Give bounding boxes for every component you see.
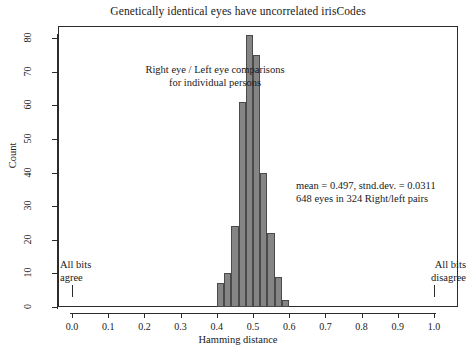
histogram-bar	[275, 277, 282, 307]
comparison-caption-line2: for individual persons	[130, 76, 300, 89]
x-axis-tick-label: 0.9	[378, 321, 418, 332]
y-axis-tick-label: 20	[22, 224, 33, 254]
y-axis-title: Count	[7, 126, 18, 186]
x-axis-tick-label: 0.4	[197, 321, 237, 332]
histogram-bar	[224, 273, 231, 307]
x-axis-tick	[362, 313, 363, 318]
y-axis-tick	[52, 72, 57, 73]
all-bits-agree-line1: All bits	[60, 258, 91, 271]
x-axis-tick-label: 1.0	[414, 321, 454, 332]
y-axis-tick-label: 70	[22, 56, 33, 86]
all-bits-agree-label: All bits agree	[60, 258, 91, 284]
x-axis-tick-label: 0.8	[342, 321, 382, 332]
x-axis-tick	[253, 313, 254, 318]
y-axis-tick-label: 30	[22, 191, 33, 221]
x-axis-tick	[217, 313, 218, 318]
y-axis-tick-label: 80	[22, 23, 33, 53]
x-axis-tick-label: 0.6	[269, 321, 309, 332]
comparison-caption-line1: Right eye / Left eye comparisons	[130, 63, 300, 76]
statistics-caption-line1: mean = 0.497, stnd.dev. = 0.0311	[296, 179, 436, 192]
statistics-caption-line2: 648 eyes in 324 Right/left pairs	[296, 192, 436, 205]
all-bits-disagree-line1: All bits	[396, 258, 466, 271]
x-axis-tick	[144, 313, 145, 318]
statistics-caption: mean = 0.497, stnd.dev. = 0.0311 648 eye…	[296, 179, 436, 205]
chart-title: Genetically identical eyes have uncorrel…	[0, 5, 476, 17]
histogram-bar	[260, 173, 267, 308]
x-axis-tick	[181, 313, 182, 318]
y-axis-tick	[52, 139, 57, 140]
y-axis-tick	[52, 173, 57, 174]
x-axis-tick	[289, 313, 290, 318]
y-axis-tick-label: 60	[22, 90, 33, 120]
x-axis-tick	[72, 313, 73, 318]
y-axis-tick-label: 50	[22, 123, 33, 153]
y-axis-tick	[52, 273, 57, 274]
histogram-bar	[282, 300, 289, 307]
histogram-chart: Genetically identical eyes have uncorrel…	[0, 0, 476, 347]
x-axis-tick-label: 0.7	[305, 321, 345, 332]
histogram-bar	[253, 55, 260, 307]
histogram-bar	[267, 233, 274, 307]
x-axis-tick	[434, 313, 435, 318]
all-bits-disagree-tick-icon	[434, 285, 435, 297]
x-axis-tick	[398, 313, 399, 318]
y-axis-tick-label: 0	[22, 292, 33, 322]
y-axis-tick	[52, 240, 57, 241]
histogram-bar	[231, 226, 238, 307]
y-axis-tick	[52, 38, 57, 39]
comparison-caption: Right eye / Left eye comparisons for ind…	[130, 63, 300, 89]
y-axis-line	[57, 34, 58, 309]
all-bits-agree-tick-icon	[72, 285, 73, 297]
y-axis-tick	[52, 105, 57, 106]
all-bits-disagree-line2: disagree	[396, 271, 466, 284]
x-axis-tick	[325, 313, 326, 318]
x-axis-tick-label: 0.1	[88, 321, 128, 332]
x-axis-tick-label: 0.3	[161, 321, 201, 332]
histogram-bar	[217, 283, 224, 307]
x-axis-tick-label: 0.2	[124, 321, 164, 332]
x-axis-tick-label: 0.5	[233, 321, 273, 332]
y-axis-tick-label: 40	[22, 157, 33, 187]
all-bits-agree-line2: agree	[60, 271, 91, 284]
y-axis-tick	[52, 206, 57, 207]
all-bits-disagree-label: All bits disagree	[396, 258, 466, 284]
x-axis-title: Hamming distance	[0, 334, 476, 345]
y-axis-tick-label: 10	[22, 258, 33, 288]
x-axis-tick-label: 0.0	[52, 321, 92, 332]
histogram-bar	[239, 102, 246, 307]
y-axis-tick	[52, 307, 57, 308]
x-axis-tick	[108, 313, 109, 318]
